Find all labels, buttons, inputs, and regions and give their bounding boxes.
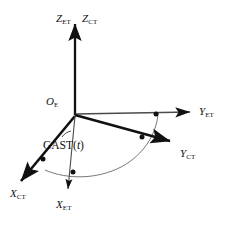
y-ct-axis-line bbox=[75, 115, 170, 141]
origin-label-base: O bbox=[46, 95, 54, 107]
gast-angle-label: GAST(t) bbox=[43, 140, 84, 152]
axis-label-z-ct: ZCT bbox=[82, 13, 97, 24]
axis-label-y-et-subscript: ET bbox=[205, 111, 214, 119]
coordinate-frame-diagram: OE ZET ZCT YET YCT XCT XET GAST(t) bbox=[0, 0, 229, 226]
axis-label-z-et: ZET bbox=[56, 13, 71, 24]
axis-label-y-et: YET bbox=[199, 106, 214, 117]
axis-label-y-ct: YCT bbox=[180, 148, 195, 159]
y-et-axis-line bbox=[75, 112, 190, 114]
marker-x-ct bbox=[41, 157, 46, 162]
axis-label-x-ct-subscript: CT bbox=[17, 193, 26, 201]
axis-label-x-et: XET bbox=[56, 199, 72, 210]
marker-y-ct bbox=[140, 135, 145, 140]
axis-label-y-ct-subscript: CT bbox=[186, 153, 195, 161]
gast-label-suffix: ) bbox=[80, 139, 84, 151]
axis-label-x-et-base: X bbox=[56, 198, 63, 210]
marker-x-et bbox=[71, 170, 76, 175]
axis-label-z-et-subscript: ET bbox=[62, 18, 71, 26]
axis-label-x-ct-base: X bbox=[10, 187, 17, 199]
gast-label-prefix: GAST( bbox=[43, 139, 77, 151]
axes-drawing bbox=[0, 0, 229, 226]
origin-label-subscript: E bbox=[54, 101, 58, 109]
marker-y-et bbox=[154, 112, 159, 117]
axis-label-z-ct-subscript: CT bbox=[88, 18, 97, 26]
origin-label: OE bbox=[46, 96, 58, 107]
axis-label-x-ct: XCT bbox=[10, 188, 26, 199]
axis-label-x-et-subscript: ET bbox=[63, 204, 72, 212]
x-et-axis-line bbox=[68, 116, 75, 189]
